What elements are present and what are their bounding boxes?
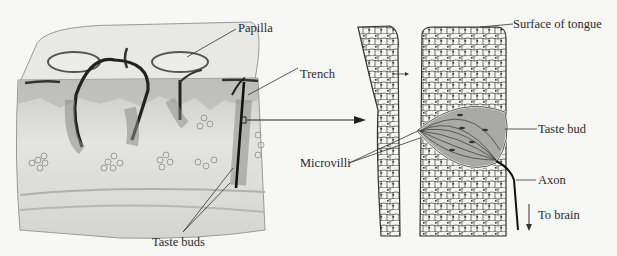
- label-taste-bud: Taste bud: [538, 123, 586, 136]
- label-to-brain: To brain: [538, 209, 580, 222]
- label-trench: Trench: [300, 68, 335, 81]
- label-papilla: Papilla: [238, 22, 273, 35]
- label-microvilli: Microvilli: [300, 157, 351, 170]
- papilla-oval-right: [152, 52, 208, 72]
- to-brain-arrow: [526, 204, 532, 231]
- trench-wall-left: [358, 26, 400, 236]
- label-surface-of-tongue: Surface of tongue: [513, 18, 602, 31]
- tongue-block: [16, 22, 265, 238]
- magnify-arrow: [247, 116, 366, 124]
- label-axon: Axon: [538, 174, 566, 187]
- diagram-canvas: [0, 0, 617, 256]
- label-taste-buds: Taste buds: [152, 236, 205, 249]
